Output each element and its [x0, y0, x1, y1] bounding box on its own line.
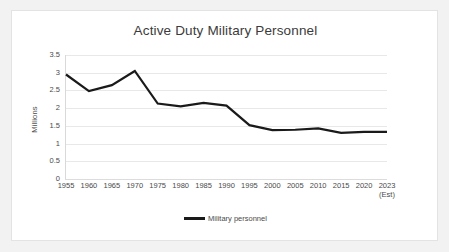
- data-series-layer: [12, 11, 439, 242]
- series-line-military-personnel: [66, 71, 387, 133]
- chart-legend: Military personnel: [12, 214, 439, 223]
- plot-area: Millions 3.532.521.510.50 19551960196519…: [12, 11, 439, 242]
- legend-label-military-personnel: Military personnel: [208, 214, 267, 223]
- chart-container: Active Duty Military Personnel Millions …: [11, 10, 438, 241]
- legend-line-swatch: [184, 217, 205, 220]
